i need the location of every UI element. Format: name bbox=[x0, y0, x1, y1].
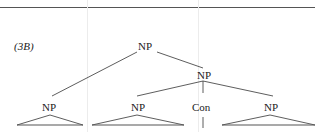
node-conjunction: Con bbox=[192, 101, 211, 113]
node-root-np: NP bbox=[138, 40, 152, 52]
figure-page: (3B) NP NP NP NP Con NP bbox=[0, 0, 315, 132]
node-left-np: NP bbox=[42, 101, 56, 113]
node-conjunct-2-np: NP bbox=[264, 101, 278, 113]
triangle-conjunct-1 bbox=[92, 115, 184, 125]
example-label: (3B) bbox=[14, 40, 34, 53]
node-right-np: NP bbox=[197, 69, 211, 81]
syntax-tree: (3B) NP NP NP NP Con NP bbox=[0, 0, 315, 132]
node-conjunct-1-np: NP bbox=[131, 101, 145, 113]
triangle-left bbox=[17, 115, 83, 125]
triangle-conjunct-2 bbox=[222, 115, 315, 125]
tree-edges bbox=[52, 52, 273, 128]
